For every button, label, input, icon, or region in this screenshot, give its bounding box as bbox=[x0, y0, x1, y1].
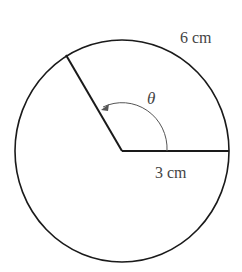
circle-diagram: θ 6 cm 3 cm bbox=[0, 0, 242, 272]
arrowhead-icon bbox=[101, 104, 109, 111]
radius-label: 3 cm bbox=[155, 164, 187, 181]
angle-label: θ bbox=[147, 89, 155, 108]
angle-arc-icon bbox=[103, 103, 167, 151]
arc-length-label: 6 cm bbox=[180, 29, 212, 46]
